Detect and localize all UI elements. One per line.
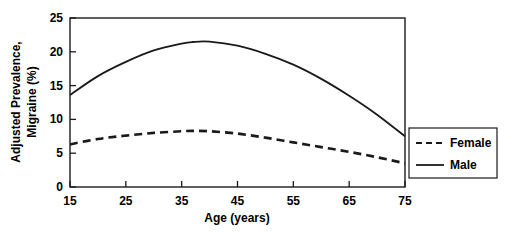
x-tick-label: 45 [231, 194, 245, 208]
x-tick-label: 75 [398, 194, 412, 208]
chart-canvas: 0510152025 15253545556575 Age (years) Ad… [0, 0, 507, 232]
x-tick-label: 55 [287, 194, 301, 208]
x-axis-title: Age (years) [204, 211, 269, 225]
x-tick-label: 65 [342, 194, 356, 208]
y-tick-label: 20 [50, 45, 64, 59]
y-axis-title-line2: Migraine (%) [25, 66, 39, 137]
legend-label-female: Female [450, 136, 492, 150]
y-tick-label: 10 [50, 112, 64, 126]
x-tick-label: 35 [175, 194, 189, 208]
y-tick-label: 15 [50, 79, 64, 93]
y-tick-label: 0 [56, 180, 63, 194]
x-tick-label: 15 [63, 194, 77, 208]
chart-legend: Female Male [409, 128, 497, 178]
y-axis-title-line1: Adjusted Prevalence, [9, 41, 23, 162]
x-axis-tick-labels: 15253545556575 [63, 194, 412, 208]
y-tick-label: 5 [56, 146, 63, 160]
x-tick-label: 25 [119, 194, 133, 208]
migraine-prevalence-chart: 0510152025 15253545556575 Age (years) Ad… [0, 0, 507, 232]
plot-area-frame [70, 18, 405, 187]
y-tick-label: 25 [50, 11, 64, 25]
y-axis-tick-labels: 0510152025 [50, 11, 64, 194]
legend-label-male: Male [450, 158, 477, 172]
